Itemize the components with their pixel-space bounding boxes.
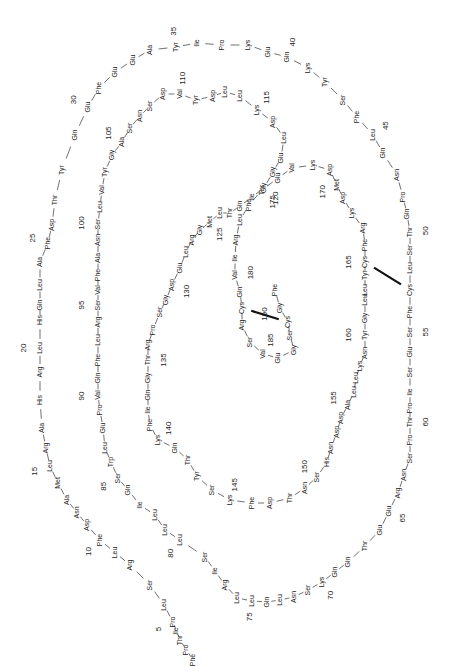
residue-32: Glu <box>111 66 118 77</box>
residue-51: Ser <box>406 244 413 256</box>
residue-147: Asp <box>266 497 274 509</box>
residue-92: Phe <box>94 354 101 367</box>
position-label-85: 85 <box>99 481 108 490</box>
peptide-bond <box>202 481 207 486</box>
position-label-130: 130 <box>182 284 191 298</box>
residue-40: Gln <box>283 51 290 62</box>
peptide-bond <box>92 94 96 100</box>
peptide-bond <box>277 127 281 132</box>
residue-182: Cys <box>238 301 246 314</box>
residue-159: Asn <box>361 347 368 359</box>
residue-180: Val <box>231 270 238 280</box>
residue-101: Leu <box>96 201 103 213</box>
residue-80: Leu <box>176 534 183 546</box>
residue-39: Glu <box>264 46 271 57</box>
position-label-90: 90 <box>77 391 86 400</box>
peptide-bond <box>406 464 408 470</box>
residue-137: Gln <box>144 389 151 400</box>
residue-118: Glu <box>277 152 284 163</box>
residue-124: Leu <box>216 207 223 219</box>
peptide-bond <box>237 501 244 502</box>
peptide-bond <box>348 106 353 112</box>
peptide-bond <box>53 208 54 217</box>
residue-42: Tyr <box>321 76 329 86</box>
peptide-bond <box>205 44 214 45</box>
residue-71: Ser <box>304 584 311 596</box>
peptide-bond <box>145 508 150 511</box>
position-label-115: 115 <box>262 91 271 104</box>
position-label-60: 60 <box>421 417 430 426</box>
peptide-bond <box>314 73 320 78</box>
position-label-165: 165 <box>344 255 353 269</box>
residue-91: Gln <box>94 372 101 383</box>
peptide-bond <box>155 318 157 324</box>
peptide-bond <box>346 203 349 208</box>
position-label-135: 135 <box>159 353 168 367</box>
residue-153: Asp <box>333 426 341 438</box>
peptide-bond <box>331 88 337 94</box>
residue-111: Tyr <box>192 94 200 104</box>
peptide-bond <box>43 249 46 255</box>
residue-187: Gly <box>290 344 298 355</box>
residue-143: Tyr <box>193 470 201 480</box>
residue-16: Arg <box>42 442 50 453</box>
residue-161: Gly <box>361 312 369 323</box>
peptide-bond <box>175 274 178 280</box>
residue-76: Leu <box>233 592 240 604</box>
peptide-bond <box>104 77 109 82</box>
residue-168: Lys <box>348 207 356 218</box>
residue-17: Ala <box>38 423 45 433</box>
position-label-80: 80 <box>166 548 175 557</box>
residue-188: Ser <box>286 329 293 341</box>
residue-15: Leu <box>46 460 53 472</box>
peptide-bond <box>137 572 144 579</box>
residue-177: Leu <box>236 214 243 226</box>
residue-58: Ile <box>406 388 413 396</box>
peptide-bond <box>392 499 395 505</box>
residue-85: Ser <box>114 472 121 484</box>
peptide-bond <box>47 454 48 460</box>
peptide-bond <box>132 495 136 500</box>
peptide-bond <box>57 180 59 190</box>
position-label-95: 95 <box>77 300 86 309</box>
position-label-150: 150 <box>300 459 309 473</box>
peptide-bond <box>283 171 288 174</box>
residue-63: Asn <box>400 469 407 481</box>
residue-135: Thr <box>144 354 151 365</box>
position-label-190: 190 <box>260 307 269 321</box>
peptide-bond <box>120 557 125 561</box>
peptide-bond <box>383 517 386 523</box>
sequence-spiral: PheProThrIleProLeuSerArgLeuPheAspAsnAlaM… <box>0 0 449 666</box>
residue-100: Ser <box>94 218 101 230</box>
residue-73: Leu <box>276 594 283 606</box>
residue-139: Phe <box>146 419 153 432</box>
residue-183: Arg <box>238 319 246 330</box>
residue-112: Asp <box>209 90 217 102</box>
position-label-70: 70 <box>326 590 335 599</box>
residue-65: Glu <box>385 505 392 516</box>
peptide-bond <box>399 182 401 189</box>
peptide-bond <box>43 435 44 442</box>
residue-150: Ser <box>313 471 320 483</box>
residue-149: Asn <box>301 482 308 494</box>
peptide-bond <box>41 409 42 419</box>
peptide-bond <box>167 611 170 617</box>
position-label-75: 75 <box>245 612 254 621</box>
residue-43: Ser <box>339 94 346 106</box>
residue-62: Ser <box>406 452 413 464</box>
residue-89: Pro <box>96 404 103 415</box>
residue-98: Ala <box>94 253 101 263</box>
residue-46: Gln <box>379 147 386 158</box>
position-label-25: 25 <box>28 233 37 242</box>
position-label-125: 125 <box>215 227 224 241</box>
residue-68: Gln <box>344 556 351 567</box>
peptide-bond <box>66 147 70 159</box>
protein-spiral-diagram: PheProThrIleProLeuSerArgLeuPheAspAsnAlaM… <box>0 0 449 666</box>
residue-74: Gln <box>263 596 270 607</box>
residue-133: Pro <box>149 324 156 335</box>
residue-152: Asn <box>327 442 334 454</box>
residue-59: Pro <box>406 402 413 413</box>
residue-81: Leu <box>161 524 168 536</box>
residue-70: Lys <box>318 576 326 587</box>
peptide-bond <box>268 355 273 356</box>
